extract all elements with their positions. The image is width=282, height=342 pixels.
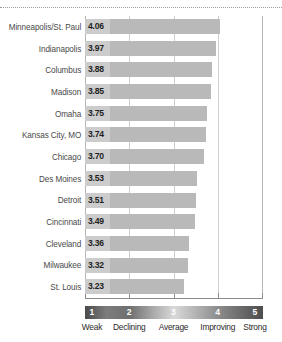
category-label: Indianapolis (4, 44, 85, 54)
legend-number-3: 3 (167, 306, 181, 319)
bar-value-label: 3.32 (85, 258, 110, 273)
category-label: St. Louis (4, 282, 85, 292)
bar-row: Omaha3.75 (0, 103, 282, 125)
top-dotted-rule (0, 7, 282, 8)
category-label: Chicago (4, 152, 85, 162)
bar-track: 3.53 (85, 168, 262, 190)
bar-row: Minneapolis/St. Paul4.06 (0, 16, 282, 38)
category-label: Columbus (4, 65, 85, 75)
category-label: Milwaukee (4, 260, 85, 270)
category-label: Omaha (4, 109, 85, 119)
legend-number-4: 4 (211, 306, 225, 319)
bar-row: Madison3.85 (0, 81, 282, 103)
bar-track: 3.51 (85, 190, 262, 212)
bar-row: Chicago3.70 (0, 146, 282, 168)
bar-value-label: 3.23 (85, 279, 110, 294)
bar-track: 3.49 (85, 211, 262, 233)
category-label: Cincinnati (4, 217, 85, 227)
bar-row: Cleveland3.36 (0, 233, 282, 255)
bar-value-label: 3.36 (85, 236, 110, 251)
category-label: Minneapolis/St. Paul (4, 22, 85, 32)
bar-value-label: 3.51 (85, 193, 110, 208)
category-label: Kansas City, MO (4, 130, 85, 140)
bar-track: 3.97 (85, 38, 262, 60)
x-axis-line (85, 298, 263, 299)
legend-number-5: 5 (248, 306, 262, 319)
bar-row: Detroit3.51 (0, 190, 282, 212)
bar-value-label: 3.49 (85, 214, 110, 229)
bar-row: Cincinnati3.49 (0, 211, 282, 233)
bar-row: Columbus3.88 (0, 59, 282, 81)
bar-value-label: 3.74 (85, 127, 110, 142)
chart-page: Minneapolis/St. Paul4.06Indianapolis3.97… (0, 0, 282, 342)
bar-rows: Minneapolis/St. Paul4.06Indianapolis3.97… (0, 16, 282, 298)
bar-track: 3.88 (85, 59, 262, 81)
bar-value-label: 3.53 (85, 171, 110, 186)
bar-track: 3.85 (85, 81, 262, 103)
bar-value-label: 3.70 (85, 149, 110, 164)
bar-track: 3.32 (85, 255, 262, 277)
bar-value-label: 3.75 (85, 106, 110, 121)
legend-label-strong: Strong (227, 322, 282, 333)
bar-row: Kansas City, MO3.74 (0, 124, 282, 146)
bar-track: 3.74 (85, 124, 262, 146)
bar-value-label: 4.06 (85, 19, 110, 34)
bar-row: Milwaukee3.32 (0, 255, 282, 277)
bar-track: 3.36 (85, 233, 262, 255)
legend-number-2: 2 (122, 306, 136, 319)
bar-value-label: 3.85 (85, 84, 110, 99)
bar-track: 3.75 (85, 103, 262, 125)
bar-track: 3.70 (85, 146, 262, 168)
bar-value-label: 3.88 (85, 62, 110, 77)
bar-row: Des Moines3.53 (0, 168, 282, 190)
category-label: Detroit (4, 195, 85, 205)
bar-row: St. Louis3.23 (0, 276, 282, 298)
bar-row: Indianapolis3.97 (0, 38, 282, 60)
bar-value-label: 3.97 (85, 41, 110, 56)
bar-track: 4.06 (85, 16, 262, 38)
category-label: Cleveland (4, 239, 85, 249)
category-label: Des Moines (4, 174, 85, 184)
bar-track: 3.23 (85, 276, 262, 298)
category-label: Madison (4, 87, 85, 97)
legend-number-1: 1 (85, 306, 99, 319)
